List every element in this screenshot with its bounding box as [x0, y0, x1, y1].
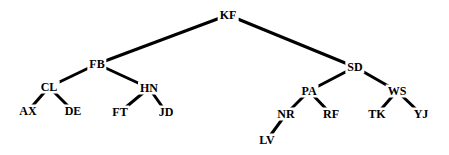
- node-ws: WS: [386, 85, 409, 98]
- tree-diagram: [0, 0, 449, 155]
- edge-kf-fb: [97, 15, 228, 64]
- node-kf: KF: [218, 9, 239, 22]
- node-jd: JD: [157, 106, 176, 119]
- node-cl: CL: [39, 81, 60, 94]
- node-sd: SD: [345, 61, 364, 74]
- node-ax: AX: [17, 105, 38, 118]
- node-nr: NR: [275, 108, 296, 121]
- node-ft: FT: [110, 106, 129, 119]
- node-tk: TK: [366, 108, 387, 121]
- node-yj: YJ: [412, 108, 431, 121]
- node-pa: PA: [299, 85, 318, 98]
- node-de: DE: [63, 105, 84, 118]
- node-lv: LV: [257, 134, 277, 147]
- edge-kf-sd: [228, 15, 355, 67]
- node-rf: RF: [321, 108, 341, 121]
- node-fb: FB: [87, 58, 106, 71]
- node-hn: HN: [138, 82, 160, 95]
